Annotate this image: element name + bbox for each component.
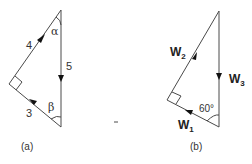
angle-alpha-arc: [56, 17, 61, 25]
vector-label-w3: W3: [229, 72, 245, 88]
angle-label-alpha: α: [51, 25, 59, 38]
caption-a: (a): [21, 141, 33, 152]
arrow-up-left-icon: [185, 110, 193, 115]
side-label-4: 4: [26, 39, 32, 51]
triangle-b: W2 W3 W1 60° (b): [167, 11, 245, 152]
right-angle-marker-a: [15, 76, 22, 90]
arrow-down-icon: [58, 75, 64, 82]
caption-b: (b): [190, 141, 202, 152]
side-label-3: 3: [26, 107, 32, 119]
diagram-canvas: 4 5 3 α β (a) W2 W3 W1 60° (b): [0, 0, 252, 164]
arrow-down-icon: [216, 73, 222, 80]
right-angle-marker-b: [172, 92, 181, 104]
angle-label-beta: β: [48, 101, 54, 114]
vector-label-w1: W1: [178, 118, 194, 134]
side-label-5: 5: [66, 60, 72, 72]
triangle-a: 4 5 3 α β (a): [9, 10, 72, 152]
angle-label-60: 60°: [199, 103, 214, 114]
angle-60-arc: [207, 115, 219, 121]
angle-beta-arc: [51, 116, 61, 119]
vector-label-w2: W2: [170, 45, 186, 61]
